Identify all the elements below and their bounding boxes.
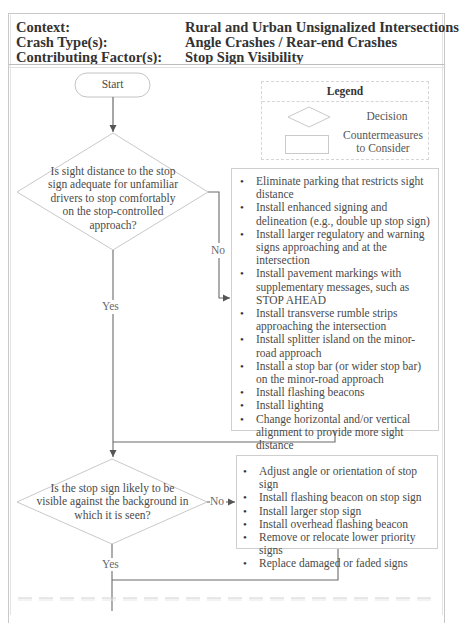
legend-countermeasure-icon xyxy=(285,135,329,154)
decision-1-line: sign adequate for unfamiliar xyxy=(38,178,188,191)
countermeasure-item: Install overhead flashing beacon xyxy=(237,518,435,531)
legend-box: Legend Decision Countermeasures to Consi… xyxy=(261,81,429,160)
countermeasure-item: Install flashing beacon on stop sign xyxy=(237,491,435,504)
decision-2-no-label: No xyxy=(210,495,224,508)
countermeasure-item: Install a stop bar (or wider stop bar) o… xyxy=(234,360,434,386)
decision-1-line: drivers to stop comfortably xyxy=(38,192,188,205)
legend-countermeasure-label: Countermeasures to Consider xyxy=(338,129,428,156)
countermeasures-box-1: Eliminate parking that restricts sight d… xyxy=(231,168,439,431)
countermeasure-item: Install enhanced signing and delineation… xyxy=(234,201,434,227)
countermeasure-item: Install splitter island on the minor-roa… xyxy=(234,333,434,359)
countermeasure-item: Change horizontal and/or vertical alignm… xyxy=(234,413,434,453)
legend-countermeasure-label-line2: to Consider xyxy=(338,142,428,155)
countermeasure-item: Replace damaged or faded signs xyxy=(237,557,435,570)
decision-1-line: Is sight distance to the stop xyxy=(38,165,188,178)
decision-2-line: Is the stop sign likely to be xyxy=(30,482,195,495)
legend-title: Legend xyxy=(262,82,428,102)
start-terminal-label: Start xyxy=(75,78,150,91)
countermeasure-item: Install pavement markings with supplemen… xyxy=(234,267,434,307)
decision-2-yes-label: Yes xyxy=(102,558,119,571)
legend-decision-icon xyxy=(286,106,332,128)
countermeasures-box-2: Adjust angle or orientation of stop sign… xyxy=(236,455,438,549)
decision-1-question: Is sight distance to the stop sign adequ… xyxy=(38,165,188,232)
decision-1-line: on the stop-controlled xyxy=(38,205,188,218)
countermeasure-item: Remove or relocate lower priority signs xyxy=(237,531,435,557)
countermeasure-item: Adjust angle or orientation of stop sign xyxy=(237,465,435,491)
decision-1-yes-label: Yes xyxy=(102,300,119,313)
countermeasure-item: Install larger stop sign xyxy=(237,505,435,518)
decision-2-line: which it is seen? xyxy=(30,509,195,522)
decision-1-no-label: No xyxy=(211,243,225,258)
decision-2-question: Is the stop sign likely to be visible ag… xyxy=(30,482,195,522)
decision-1-line: approach? xyxy=(38,219,188,232)
countermeasure-item: Install larger regulatory and warning si… xyxy=(234,228,434,268)
countermeasure-item: Install transverse rumble strips approac… xyxy=(234,307,434,333)
legend-countermeasure-label-line1: Countermeasures xyxy=(338,129,428,142)
legend-decision-label: Decision xyxy=(352,110,422,123)
countermeasure-item: Install flashing beacons xyxy=(234,386,434,399)
countermeasure-item: Install lighting xyxy=(234,399,434,412)
countermeasure-item: Eliminate parking that restricts sight d… xyxy=(234,175,434,201)
decision-2-line: visible against the background in xyxy=(30,495,195,508)
